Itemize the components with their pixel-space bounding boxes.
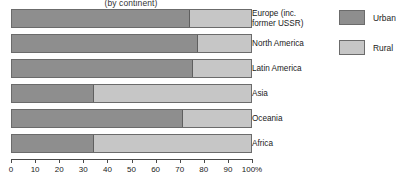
stacked-bar-chart: (by continent) 0102030405060708090100% U… <box>0 0 409 187</box>
plot-area <box>11 9 252 157</box>
x-axis-tick <box>180 159 181 163</box>
x-axis-tick-label: 30 <box>79 165 88 174</box>
x-axis-tick <box>59 159 60 163</box>
x-axis-tick <box>204 159 205 163</box>
x-axis-tick <box>11 159 12 163</box>
x-axis-tick-label: 60 <box>151 165 160 174</box>
bar-track-rural <box>11 9 252 28</box>
x-axis-tick-label: 20 <box>55 165 64 174</box>
chart-title: (by continent) <box>0 0 262 8</box>
bar-row <box>11 134 252 153</box>
bar-track-rural <box>11 134 252 153</box>
bar-segment-urban <box>12 60 193 77</box>
x-axis-tick-label: 80 <box>199 165 208 174</box>
bar-row <box>11 84 252 103</box>
bar-row <box>11 9 252 28</box>
bar-track-rural <box>11 34 252 53</box>
bar-segment-urban <box>12 135 94 152</box>
legend-label: Rural <box>373 43 393 53</box>
x-axis-tick <box>107 159 108 163</box>
bar-segment-urban <box>12 85 94 102</box>
bar-row <box>11 59 252 78</box>
legend-swatch-icon <box>339 40 365 55</box>
x-axis-tick <box>83 159 84 163</box>
bar-segment-urban <box>12 110 183 127</box>
x-axis-tick <box>228 159 229 163</box>
bar-segment-urban <box>12 10 190 27</box>
legend-swatch-icon <box>339 10 365 25</box>
x-axis-tick <box>132 159 133 163</box>
bar-segment-urban <box>12 35 198 52</box>
bar-row <box>11 34 252 53</box>
x-axis-tick-label: 70 <box>175 165 184 174</box>
x-axis: 0102030405060708090100% <box>11 159 252 183</box>
x-axis-tick-label: 0 <box>9 165 13 174</box>
category-label: North America <box>252 39 332 48</box>
x-axis-tick-label: 100% <box>242 165 262 174</box>
x-axis-tick <box>156 159 157 163</box>
x-axis-tick-label: 40 <box>103 165 112 174</box>
category-label: Asia <box>252 89 332 98</box>
x-axis-tick <box>35 159 36 163</box>
category-label: Europe (inc. former USSR) <box>252 9 332 28</box>
x-axis-tick <box>252 159 253 163</box>
category-label: Africa <box>252 139 332 148</box>
bar-track-rural <box>11 59 252 78</box>
bar-track-rural <box>11 84 252 103</box>
legend-label: Urban <box>373 13 396 23</box>
category-label: Latin America <box>252 64 332 73</box>
x-axis-tick-label: 90 <box>223 165 232 174</box>
bar-row <box>11 109 252 128</box>
bar-track-rural <box>11 109 252 128</box>
category-label: Oceania <box>252 114 332 123</box>
x-axis-tick-label: 50 <box>127 165 136 174</box>
x-axis-tick-label: 10 <box>31 165 40 174</box>
